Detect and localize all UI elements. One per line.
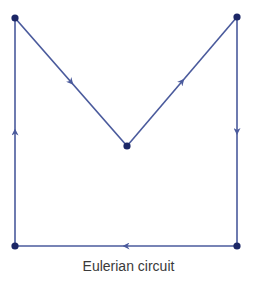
node-bottom-left (11, 242, 18, 249)
edge-top-left-to-middle (15, 18, 127, 146)
diagram-caption: Eulerian circuit (0, 258, 257, 274)
node-top-right (233, 13, 240, 20)
eulerian-circuit-graph (0, 0, 257, 281)
node-top-left (11, 14, 18, 21)
node-middle (123, 142, 130, 149)
edge-middle-to-top-right (127, 17, 237, 146)
node-bottom-right (233, 242, 240, 249)
